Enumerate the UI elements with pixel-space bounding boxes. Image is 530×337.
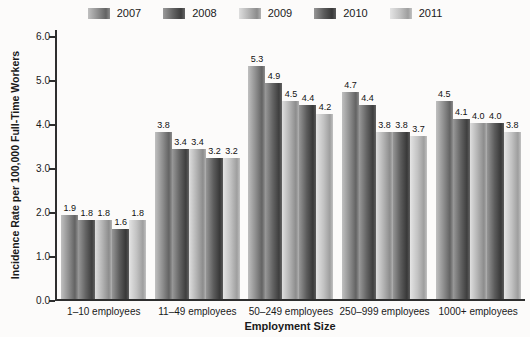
bar-group-3: 5.34.94.54.44.2 xyxy=(244,66,338,299)
legend-swatch-2011 xyxy=(390,8,412,19)
bar-2008: 1.8 xyxy=(78,220,95,299)
bar-value-label: 4.9 xyxy=(268,71,281,81)
bar-value-label: 3.4 xyxy=(174,137,187,147)
bar-value-label: 3.8 xyxy=(395,120,408,130)
bar-2010: 3.2 xyxy=(206,158,223,299)
x-category-labels: 1–10 employees11–49 employees50–249 empl… xyxy=(57,306,525,317)
y-axis-title: Incidence Rate per 100,000 Full-Time Wor… xyxy=(9,51,21,279)
bar-value-label: 3.4 xyxy=(191,137,204,147)
x-category-label: 1000+ employees xyxy=(431,306,525,317)
bar-group-2: 3.83.43.43.23.2 xyxy=(151,66,245,299)
x-axis-title: Employment Size xyxy=(55,320,525,332)
bar-value-label: 4.2 xyxy=(319,102,332,112)
bar-group-1: 1.91.81.81.61.8 xyxy=(57,66,151,299)
bar-value-label: 1.8 xyxy=(81,208,94,218)
y-tick-label: 5.0 xyxy=(24,75,50,86)
bar-2009: 4.5 xyxy=(282,101,299,299)
y-tick-label: 2.0 xyxy=(24,207,50,218)
bar-2011: 3.7 xyxy=(410,136,427,299)
bar-2007: 1.9 xyxy=(61,215,78,299)
bar-value-label: 4.5 xyxy=(285,89,298,99)
bar-2011: 3.2 xyxy=(223,158,240,299)
y-tick-label: 6.0 xyxy=(24,31,50,42)
y-tick-mark xyxy=(49,300,55,302)
bar-2010: 4.4 xyxy=(299,105,316,299)
bar-2011: 1.8 xyxy=(129,220,146,299)
legend-label: 2007 xyxy=(117,7,141,19)
bar-value-label: 3.7 xyxy=(412,124,425,134)
bar-2008: 4.1 xyxy=(453,119,470,299)
bar-2011: 3.8 xyxy=(504,132,521,299)
chart-legend: 20072008200920102011 xyxy=(0,7,530,19)
bar-value-label: 3.8 xyxy=(506,120,519,130)
legend-label: 2009 xyxy=(268,7,292,19)
bar-2008: 4.4 xyxy=(359,105,376,299)
bar-2007: 5.3 xyxy=(248,66,265,299)
y-tick-label: 1.0 xyxy=(24,251,50,262)
bar-value-label: 4.4 xyxy=(302,93,315,103)
y-tick-label: 4.0 xyxy=(24,119,50,130)
bar-value-label: 3.8 xyxy=(378,120,391,130)
legend-swatch-2009 xyxy=(239,8,261,19)
bar-value-label: 4.1 xyxy=(455,107,468,117)
bar-2010: 3.8 xyxy=(393,132,410,299)
legend-label: 2010 xyxy=(343,7,367,19)
bar-2011: 4.2 xyxy=(316,114,333,299)
legend-swatch-2010 xyxy=(314,8,336,19)
x-category-label: 250–999 employees xyxy=(338,306,432,317)
bar-value-label: 3.2 xyxy=(225,146,238,156)
legend-swatch-2007 xyxy=(88,8,110,19)
bar-value-label: 4.0 xyxy=(472,111,485,121)
bar-2008: 3.4 xyxy=(172,149,189,299)
legend-item-2009: 2009 xyxy=(239,7,292,19)
bars-container: 1.91.81.81.61.83.83.43.43.23.25.34.94.54… xyxy=(57,66,525,299)
y-tick-label: 3.0 xyxy=(24,163,50,174)
y-tick-label: 0.0 xyxy=(24,295,50,306)
bar-value-label: 5.3 xyxy=(251,54,264,64)
bar-2009: 4.0 xyxy=(470,123,487,299)
bar-value-label: 4.7 xyxy=(344,80,357,90)
legend-item-2011: 2011 xyxy=(390,7,443,19)
y-tick-mark xyxy=(49,168,55,170)
y-tick-mark xyxy=(49,124,55,126)
incidence-rate-bar-chart: 20072008200920102011 Incidence Rate per … xyxy=(0,0,530,337)
legend-swatch-2008 xyxy=(163,8,185,19)
y-tick-mark xyxy=(49,36,55,38)
y-tick-mark xyxy=(49,212,55,214)
bar-value-label: 3.8 xyxy=(157,120,170,130)
bar-value-label: 3.2 xyxy=(208,146,221,156)
legend-label: 2008 xyxy=(192,7,216,19)
bar-2009: 3.4 xyxy=(189,149,206,299)
legend-label: 2011 xyxy=(419,7,443,19)
plot-area: 1.91.81.81.61.83.83.43.43.23.25.34.94.54… xyxy=(55,30,525,301)
bar-value-label: 1.8 xyxy=(98,208,111,218)
legend-item-2010: 2010 xyxy=(314,7,367,19)
bar-value-label: 4.4 xyxy=(361,93,374,103)
x-axis-line xyxy=(55,299,525,301)
x-category-label: 1–10 employees xyxy=(57,306,151,317)
bar-group-5: 4.54.14.04.03.8 xyxy=(431,66,525,299)
bar-group-4: 4.74.43.83.83.7 xyxy=(338,66,432,299)
bar-2010: 4.0 xyxy=(487,123,504,299)
bar-2007: 3.8 xyxy=(155,132,172,299)
legend-item-2007: 2007 xyxy=(88,7,141,19)
bar-2009: 1.8 xyxy=(95,220,112,299)
bar-2007: 4.7 xyxy=(342,92,359,299)
bar-2010: 1.6 xyxy=(112,229,129,299)
bar-2008: 4.9 xyxy=(265,83,282,299)
bar-2007: 4.5 xyxy=(436,101,453,299)
x-category-label: 11–49 employees xyxy=(151,306,245,317)
x-category-label: 50–249 employees xyxy=(244,306,338,317)
bar-value-label: 1.8 xyxy=(132,208,145,218)
y-tick-mark xyxy=(49,256,55,258)
bar-value-label: 4.5 xyxy=(438,89,451,99)
bar-value-label: 4.0 xyxy=(489,111,502,121)
bar-2009: 3.8 xyxy=(376,132,393,299)
bar-value-label: 1.9 xyxy=(64,203,77,213)
legend-item-2008: 2008 xyxy=(163,7,216,19)
bar-value-label: 1.6 xyxy=(115,217,128,227)
y-tick-mark xyxy=(49,80,55,82)
